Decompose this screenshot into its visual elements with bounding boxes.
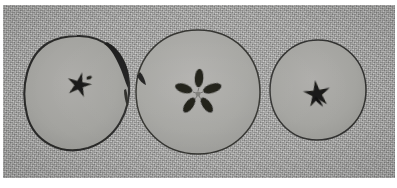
photographic-plate xyxy=(3,5,395,178)
apple-right xyxy=(3,5,395,178)
figure-root: Black-and-white photographic plate showi… xyxy=(0,0,397,188)
